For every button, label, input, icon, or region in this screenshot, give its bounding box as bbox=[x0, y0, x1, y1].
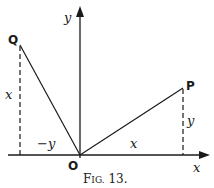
x-axis-arrow-icon bbox=[199, 151, 210, 159]
y-axis-arrow-icon bbox=[76, 6, 84, 17]
P-vertical-label: y bbox=[186, 113, 195, 128]
caption-initial: F bbox=[83, 172, 91, 186]
x-axis-label: x bbox=[193, 160, 201, 175]
caption-small-caps: IG. bbox=[91, 175, 104, 185]
point-Q-label: Q bbox=[8, 33, 18, 47]
origin-label: O bbox=[68, 159, 78, 173]
caption-number: 13. bbox=[105, 172, 128, 186]
figure-caption: FIG. 13. bbox=[83, 172, 128, 186]
point-P-label: P bbox=[186, 79, 195, 93]
OQ-horizontal-label: −y bbox=[37, 136, 56, 151]
coordinate-diagram: Q P O y x x −y x y FIG. 13. bbox=[0, 0, 214, 188]
OP-horizontal-label: x bbox=[130, 136, 138, 151]
y-axis-label: y bbox=[63, 10, 72, 25]
figure-13: Q P O y x x −y x y FIG. 13. bbox=[0, 0, 214, 188]
Q-vertical-label: x bbox=[5, 87, 13, 102]
